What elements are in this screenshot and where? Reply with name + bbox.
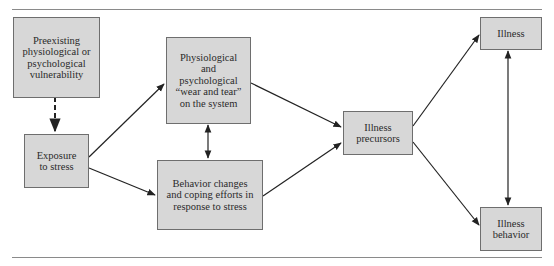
node-vulnerability: Preexisting physiological or psychologic…: [13, 17, 100, 98]
node-behavior-changes-label: Behavior changes and coping efforts in r…: [166, 178, 254, 213]
arrow-exposure-behavior: [89, 168, 155, 195]
node-wear-tear-label: Physiological and psychological “wear an…: [176, 52, 242, 110]
node-illness-behavior: Illness behavior: [480, 207, 542, 251]
node-illness: Illness: [480, 17, 542, 50]
node-illness-label: Illness: [497, 28, 524, 40]
arrow-precursors-illness: [413, 35, 479, 126]
arrow-precursors-illnessbehavior: [413, 142, 479, 225]
node-vulnerability-label: Preexisting physiological or psychologic…: [22, 35, 92, 81]
arrow-exposure-weartear: [89, 84, 164, 157]
node-wear-tear: Physiological and psychological “wear an…: [166, 37, 251, 124]
node-precursors: Illness precursors: [343, 111, 413, 155]
node-exposure-label: Exposure to stress: [33, 150, 81, 173]
node-illness-behavior-label: Illness behavior: [487, 218, 535, 241]
node-exposure: Exposure to stress: [24, 134, 89, 188]
node-behavior-changes: Behavior changes and coping efforts in r…: [157, 160, 263, 230]
node-precursors-label: Illness precursors: [348, 122, 408, 145]
arrow-weartear-precursors: [251, 83, 341, 127]
arrow-behavior-precursors: [263, 143, 341, 196]
